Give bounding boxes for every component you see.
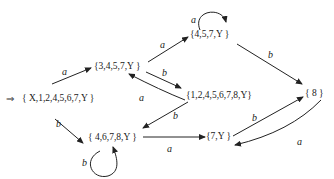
- edge-label-s4-s5: a: [167, 143, 172, 154]
- edge-s4-loop: [90, 147, 117, 177]
- edge-label-s2-loop: a: [191, 14, 196, 25]
- edge-label-s6-s5: a: [297, 136, 302, 147]
- edge-s6-s5: [235, 100, 321, 145]
- state-node-s5: {7,Y }: [206, 131, 231, 141]
- state-node-s4: { 4,6,7,8,Y }: [88, 132, 137, 142]
- edge-s0-s1: [52, 68, 91, 84]
- state-node-s3: {1,2,4,5,6,7,8,Y}: [186, 90, 252, 100]
- edge-s2-loop: [199, 12, 226, 30]
- edge-s5-s6: [233, 97, 303, 136]
- state-node-s1: {3,4,5,7,Y }: [94, 61, 141, 71]
- edge-label-s3-s1: a: [139, 92, 144, 103]
- start-arrow-icon: ⇒: [6, 93, 14, 104]
- edge-s1-s2: [148, 37, 188, 62]
- edge-label-s0-s4: b: [56, 118, 61, 129]
- edge-label-s2-s6: b: [268, 49, 273, 60]
- edge-s3-s1: [129, 74, 185, 100]
- edge-s3-s4: [143, 102, 188, 128]
- state-node-s0: { X,1,2,4,5,6,7,Y }: [22, 93, 94, 103]
- edge-label-s1-s3: b: [162, 67, 167, 78]
- state-node-s6: { 8 }: [305, 88, 324, 98]
- edge-label-s3-s4: b: [173, 110, 178, 121]
- edge-label-s1-s2: a: [160, 39, 165, 50]
- edge-label-s0-s1: a: [62, 66, 67, 77]
- state-node-s2: {4,5,7,Y }: [190, 29, 229, 39]
- edge-label-s4-loop: b: [82, 157, 87, 168]
- edge-label-s5-s6: b: [252, 112, 257, 123]
